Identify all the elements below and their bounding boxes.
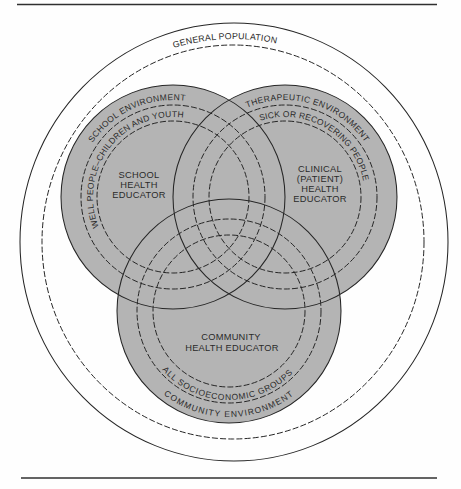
school-role-line-2: HEALTH xyxy=(120,180,158,190)
school-health-educator-label: SCHOOL HEALTH EDUCATOR xyxy=(112,170,165,200)
community-circle-fill xyxy=(117,199,341,423)
clinical-role-line-1: CLINICAL xyxy=(298,164,342,174)
community-role-line-2: HEALTH EDUCATOR xyxy=(185,343,279,353)
clinical-health-educator-label: CLINICAL (PATIENT) HEALTH EDUCATOR xyxy=(293,164,346,204)
community-role-line-1: COMMUNITY xyxy=(201,332,261,342)
school-role-line-1: SCHOOL xyxy=(119,170,160,180)
clinical-role-line-2: (PATIENT) xyxy=(297,174,343,184)
clinical-role-line-4: EDUCATOR xyxy=(293,194,346,204)
health-educator-venn-diagram: GENERAL POPULATION SCHOOL ENVIRONMENT WE… xyxy=(0,0,461,489)
clinical-role-line-3: HEALTH xyxy=(301,184,339,194)
school-role-line-3: EDUCATOR xyxy=(112,190,165,200)
